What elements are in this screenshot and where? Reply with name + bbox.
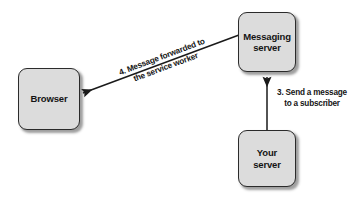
node-messaging-server-label: Messaging server [243, 31, 291, 54]
node-browser: Browser [18, 68, 80, 130]
diagram-canvas: Browser Messaging server Your server 4. … [0, 0, 355, 200]
node-messaging-server: Messaging server [238, 12, 296, 72]
node-browser-label: Browser [31, 93, 68, 105]
node-your-server: Your server [238, 130, 296, 187]
edge-label-send-a-message: 3. Send a message to a subscriber [272, 88, 352, 109]
node-your-server-label: Your server [253, 147, 281, 170]
